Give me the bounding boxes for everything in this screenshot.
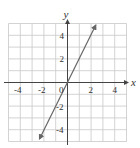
origin-label: 0: [59, 85, 64, 95]
coordinate-graph: x y -4 -2 0 2 4 4 2 -2 -4: [0, 0, 140, 148]
x-tick-label: -2: [38, 85, 46, 95]
x-tick-label: 2: [89, 85, 94, 95]
y-tick-label: -2: [56, 102, 64, 112]
y-tick-label: -4: [56, 125, 64, 135]
x-axis-label: x: [130, 76, 136, 88]
y-tick-label: 2: [60, 54, 65, 64]
y-axis-label: y: [63, 8, 69, 20]
y-tick-label: 4: [60, 31, 65, 41]
x-tick-label: 4: [113, 85, 118, 95]
x-tick-label: -4: [14, 85, 22, 95]
